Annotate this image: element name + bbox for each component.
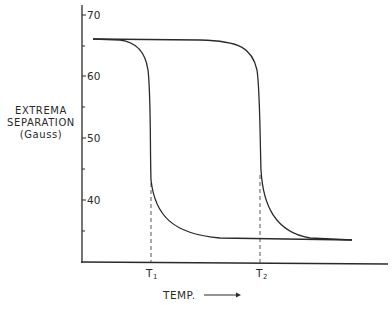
series-upper-branch bbox=[93, 39, 352, 240]
arrow-right-icon bbox=[236, 293, 241, 298]
t2-label: T2 bbox=[256, 268, 268, 281]
series-lower-branch bbox=[93, 39, 352, 240]
x-axis bbox=[81, 262, 388, 264]
ylabel-line-2: SEPARATION bbox=[3, 117, 79, 129]
ytick-70: 70 bbox=[87, 10, 100, 21]
ylabel-line-1: EXTREMA bbox=[3, 105, 79, 117]
hysteresis-chart bbox=[0, 0, 392, 311]
ytick-60: 60 bbox=[87, 71, 100, 82]
ytick-40: 40 bbox=[87, 195, 100, 206]
ylabel-line-3: (Gauss) bbox=[3, 129, 79, 141]
t1-label: T1 bbox=[146, 268, 158, 281]
y-axis-label: EXTREMA SEPARATION (Gauss) bbox=[3, 105, 79, 141]
ytick-50: 50 bbox=[87, 133, 100, 144]
x-axis-label: TEMP. bbox=[163, 290, 196, 301]
